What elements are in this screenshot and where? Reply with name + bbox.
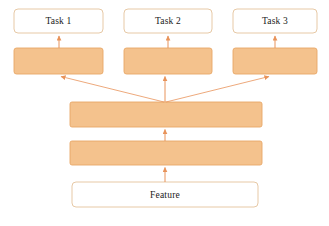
arrow-shared-upper-to-head-task1 <box>61 77 164 103</box>
block-shared-upper[interactable] <box>70 102 262 127</box>
block-head-task2[interactable] <box>124 48 212 74</box>
box-task2[interactable] <box>124 9 212 33</box>
diagram-graphics <box>0 0 329 226</box>
block-shared-lower[interactable] <box>70 141 262 165</box>
block-head-task1[interactable] <box>14 48 103 74</box>
box-task3[interactable] <box>233 9 317 33</box>
diagram-canvas: Task 1 Task 2 Task 3 Feature <box>0 0 329 226</box>
block-head-task3[interactable] <box>233 48 317 74</box>
box-feature[interactable] <box>72 182 258 207</box>
box-task1[interactable] <box>14 9 103 33</box>
arrow-shared-upper-to-head-task3 <box>166 77 269 103</box>
